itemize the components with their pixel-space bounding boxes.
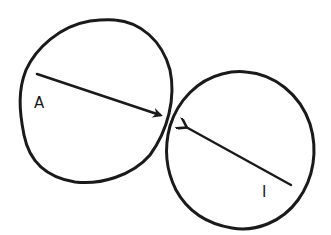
arrow-i-to-a (186, 127, 291, 185)
circle-i-outline (167, 72, 314, 229)
label-a: A (34, 94, 45, 112)
node-a: A (20, 20, 172, 183)
arrow-a-to-i (37, 74, 160, 115)
node-i: I (167, 72, 314, 229)
label-i: I (262, 183, 266, 201)
diagram-canvas: A I (0, 0, 331, 235)
